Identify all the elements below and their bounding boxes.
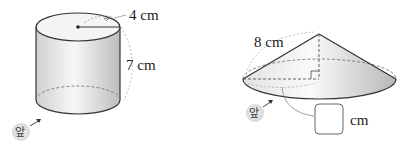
cylinder-height-label: 7 cm [126,57,156,73]
answer-box[interactable] [315,104,343,134]
cylinder-front-marker: 앞 [12,119,41,141]
cone-unit-label: cm [350,112,369,128]
cylinder-front-label: 앞 [15,126,25,139]
cone-front-marker: 앞 [246,100,273,122]
cylinder-radius-label: 4 cm [129,7,159,23]
cone-front-label: 앞 [249,107,259,120]
diagram-canvas: 4 cm 7 cm 앞 8 cm cm 앞 [0,0,411,153]
cone-slant-label: 8 cm [254,34,284,50]
cylinder-figure [36,13,132,114]
